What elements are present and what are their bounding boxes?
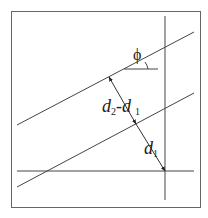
distance-label-d1: d1 bbox=[144, 138, 158, 159]
angle-label-phi: ϕ bbox=[133, 46, 141, 64]
angle-arc bbox=[145, 62, 148, 69]
distance-label-d2-minus-d1: d2-d1 bbox=[102, 96, 140, 117]
diagram-canvas: ϕ d2-d1 d1 bbox=[0, 0, 208, 218]
